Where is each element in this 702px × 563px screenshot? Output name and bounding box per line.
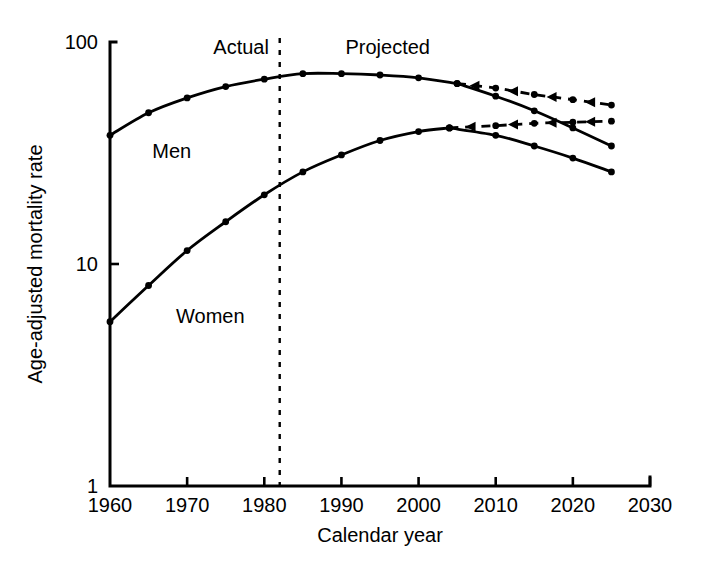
data-point-marker [492, 93, 499, 100]
x-axis-title: Calendar year [317, 524, 443, 546]
data-point-marker [107, 132, 114, 139]
data-point-marker [531, 91, 538, 98]
data-point-marker [261, 191, 268, 198]
data-point-marker [145, 109, 152, 116]
data-point-marker [569, 119, 576, 126]
annotation-women: Women [176, 305, 245, 327]
projection-arrow-icon [585, 117, 595, 127]
x-axis-tick-label: 2030 [628, 494, 673, 516]
annotation-actual: Actual [213, 36, 269, 58]
data-point-marker [222, 83, 229, 90]
data-point-marker [261, 76, 268, 83]
annotation-projected: Projected [345, 36, 430, 58]
data-point-marker [492, 132, 499, 139]
data-point-marker [531, 120, 538, 127]
data-point-marker [569, 155, 576, 162]
data-point-marker [492, 85, 499, 92]
annotation-men: Men [152, 140, 191, 162]
data-point-marker [608, 102, 615, 109]
data-point-marker [377, 137, 384, 144]
data-point-marker [492, 122, 499, 129]
x-axis-tick-label: 2000 [396, 494, 441, 516]
data-point-marker [608, 168, 615, 175]
mortality-rate-line-chart: 19601970198019902000201020202030110100Ca… [0, 0, 702, 563]
x-axis-tick-label: 1970 [165, 494, 210, 516]
data-point-marker [454, 80, 461, 87]
x-axis-tick-label: 1990 [319, 494, 364, 516]
data-point-marker [338, 152, 345, 159]
chart-container: 19601970198019902000201020202030110100Ca… [0, 0, 702, 563]
x-axis-tick-label: 1960 [88, 494, 133, 516]
projection-arrow-icon [508, 120, 518, 130]
data-point-marker [184, 95, 191, 102]
data-point-marker [222, 218, 229, 225]
x-axis-tick-label: 1980 [242, 494, 287, 516]
data-point-marker [415, 128, 422, 135]
data-point-marker [569, 96, 576, 103]
data-point-marker [299, 168, 306, 175]
data-point-marker [107, 318, 114, 325]
data-point-marker [299, 70, 306, 77]
data-point-marker [608, 143, 615, 150]
data-point-marker [377, 72, 384, 79]
projection-arrow-icon [547, 92, 557, 102]
data-point-marker [531, 143, 538, 150]
x-axis-tick-label: 2010 [473, 494, 518, 516]
data-point-marker [608, 118, 615, 125]
projection-arrow-icon [585, 97, 595, 107]
data-point-marker [531, 107, 538, 114]
y-axis-tick-label: 10 [76, 253, 98, 275]
data-point-marker [145, 282, 152, 289]
data-point-marker [415, 74, 422, 81]
y-axis-tick-label: 100 [65, 31, 98, 53]
data-point-marker [338, 70, 345, 77]
series-line-men [110, 73, 457, 135]
y-axis-tick-label: 1 [87, 475, 98, 497]
x-axis-tick-label: 2020 [551, 494, 596, 516]
data-point-marker [184, 247, 191, 254]
projection-arrow-icon [508, 86, 518, 96]
chart-axes [110, 42, 650, 486]
data-point-marker [446, 125, 453, 132]
y-axis-title: Age-adjusted mortality rate [24, 144, 46, 383]
